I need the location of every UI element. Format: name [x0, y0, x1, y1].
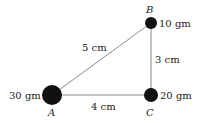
- edge-ab-length: 5 cm: [82, 42, 107, 53]
- mass-b-value: 10 gm: [159, 18, 191, 29]
- point-b-label: B: [145, 4, 153, 15]
- mass-b: [145, 17, 157, 29]
- mass-a: [42, 85, 62, 105]
- mass-a-value: 30 gm: [9, 90, 41, 101]
- point-a-label: A: [47, 107, 55, 118]
- point-c-label: C: [146, 107, 154, 118]
- mass-triangle-diagram: 5 cm 3 cm 4 cm 30 gm 10 gm 20 gm A B C: [0, 0, 199, 123]
- mass-c: [144, 88, 158, 102]
- edge-bc-length: 3 cm: [155, 54, 180, 65]
- edge-ab: [52, 23, 151, 95]
- mass-c-value: 20 gm: [160, 90, 192, 101]
- edge-ac-length: 4 cm: [91, 101, 116, 112]
